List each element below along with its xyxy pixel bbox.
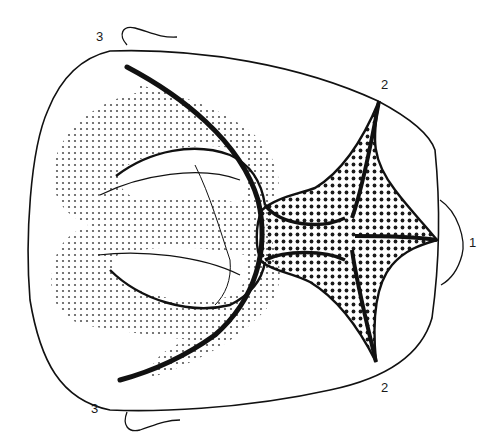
label-2-top: 2 <box>381 78 388 91</box>
label-3-bottom: 3 <box>91 402 98 415</box>
curl-top <box>122 27 177 45</box>
label-1: 1 <box>469 236 476 249</box>
curl-right <box>440 200 463 285</box>
label-2-bottom: 2 <box>381 381 388 394</box>
curl-bottom <box>125 412 180 431</box>
diagram-drawing <box>0 0 496 447</box>
label-3-top: 3 <box>96 30 103 43</box>
coarse-stipple-star <box>257 101 437 362</box>
anatomical-diagram: 3 2 1 2 3 <box>0 0 496 447</box>
